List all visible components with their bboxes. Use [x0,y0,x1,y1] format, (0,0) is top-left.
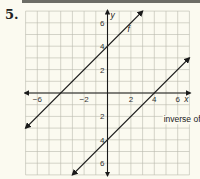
x-axis-label: x [183,94,189,104]
x-tick-label: 2 [129,95,134,104]
y-tick-label: 2 [100,66,105,75]
y-tick-label: 6 [100,19,105,28]
y-tick-label: 2 [100,112,105,121]
y-tick-label: 6 [100,159,105,168]
x-tick-label: −6 [33,95,43,104]
axes [25,10,191,176]
x-tick-label: 4 [152,95,157,104]
y-axis-label: y [110,10,116,20]
x-tick-label: 6 [175,95,180,104]
x-tick-label: −2 [80,95,90,104]
annotation-inverse-of-f: inverse of f [164,114,200,124]
tick-labels: −6−2246642246xy [33,10,189,168]
coordinate-graph: −6−2246642246xy finverse of f [0,0,200,179]
